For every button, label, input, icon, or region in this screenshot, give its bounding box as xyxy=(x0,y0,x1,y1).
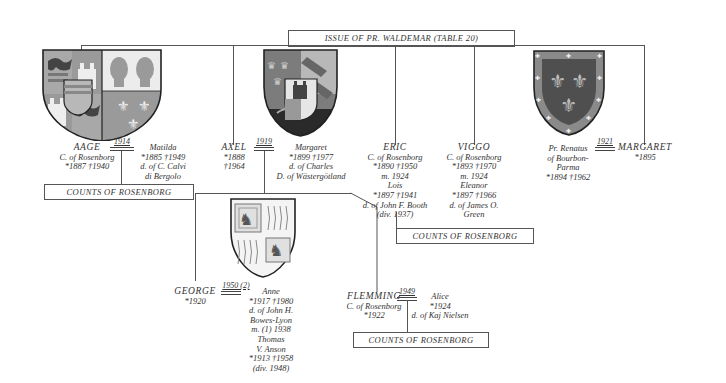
svg-text:✚: ✚ xyxy=(586,114,591,121)
connector-top-horizontal xyxy=(81,45,644,46)
svg-text:⚜: ⚜ xyxy=(549,70,566,92)
shield-george-icon: ♞ ♞ xyxy=(230,198,296,278)
connector-margaret-drop xyxy=(644,45,645,145)
svg-text:✚: ✚ xyxy=(566,127,571,134)
connector-aage-issue xyxy=(121,151,122,184)
connector-viggo-issue xyxy=(396,212,397,228)
svg-text:✚: ✚ xyxy=(535,52,540,59)
svg-text:✚: ✚ xyxy=(535,74,540,81)
shield-bourbon-parma-icon: ⚜ ⚜ ⚜ ✚✚✚ ✚✚ ✚✚ ✚✚ ✚ xyxy=(533,50,605,136)
svg-text:⚜: ⚜ xyxy=(117,98,130,114)
svg-text:⚜: ⚜ xyxy=(571,70,588,92)
issue-box-aage: COUNTS OF ROSENBORG xyxy=(44,184,194,200)
spouse-renatus: Pr. Renatus of Bourbon- Parma *1894 †196… xyxy=(540,144,596,182)
connector-george-drop xyxy=(195,193,196,281)
person-axel: AXEL *1888 †1964 xyxy=(212,143,256,172)
svg-text:✚: ✚ xyxy=(596,96,601,103)
person-eric: ERIC C. of Rosenborg *1890 †1950 m. 1924… xyxy=(352,143,438,220)
shield-aage-matilda-icon: ⚜ ⚜ ⚜ xyxy=(42,49,162,141)
connector-axel-drop xyxy=(233,45,234,145)
svg-text:✚: ✚ xyxy=(597,74,602,81)
svg-text:✚: ✚ xyxy=(566,52,571,59)
page-title: ISSUE OF PR. WALDEMAR (TABLE 20) xyxy=(325,33,479,43)
marriage-symbol xyxy=(595,147,615,151)
spouse-matilda: Matilda *1885 †1949 d. of C. Calvi di Be… xyxy=(128,143,198,181)
svg-text:⚜: ⚜ xyxy=(560,94,577,116)
person-viggo: VIGGO C. of Rosenborg *1893 †1970 m. 192… xyxy=(436,143,512,220)
connector-eric-drop xyxy=(395,45,396,145)
connector-flemming-issue xyxy=(407,300,408,332)
shield-axel-icon: ♛ ♛ ♛ ✱ xyxy=(263,49,338,137)
svg-text:♞: ♞ xyxy=(239,210,253,229)
spouse-margaret-axel: Margaret *1899 †1977 d. of Charles D. of… xyxy=(266,143,356,181)
spouse-alice: Alice *1924 d. of Kaj Nielsen xyxy=(408,292,472,321)
svg-text:♛: ♛ xyxy=(273,76,282,87)
svg-text:✚: ✚ xyxy=(597,52,602,59)
person-margaret: MARGARET *1895 xyxy=(615,143,675,162)
svg-text:✚: ✚ xyxy=(546,114,551,121)
svg-text:♛: ♛ xyxy=(267,60,276,71)
marriage-margaret: 1921 xyxy=(595,137,615,151)
issue-box-flemming: COUNTS OF ROSENBORG xyxy=(353,332,489,348)
person-george: GEORGE *1920 xyxy=(170,287,220,306)
svg-text:⚜: ⚜ xyxy=(138,98,151,114)
svg-text:✚: ✚ xyxy=(536,96,541,103)
connector-viggo-drop xyxy=(474,45,475,145)
connector-axel-issue xyxy=(264,151,265,193)
svg-text:♛: ♛ xyxy=(280,60,289,71)
marriage-year: 1921 xyxy=(595,137,615,146)
connector-axel-issue-horizontal xyxy=(195,193,351,194)
spouse-anne: Anne *1917 †1980 d. of John H. Bowes-Lyo… xyxy=(236,287,306,373)
issue-box-viggo: COUNTS OF ROSENBORG xyxy=(396,228,534,244)
svg-text:♞: ♞ xyxy=(269,241,283,260)
